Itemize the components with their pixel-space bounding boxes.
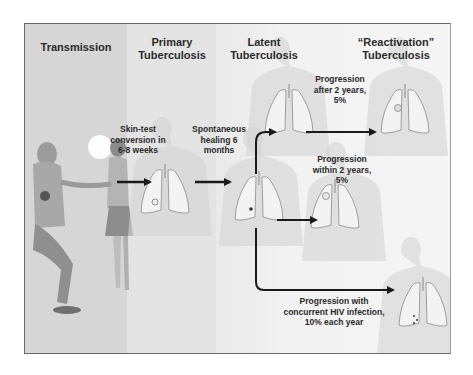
label-line: healing 6 <box>185 135 253 146</box>
transition-label-within-2-years: Progression within 2 years, 5% <box>304 154 380 186</box>
mother-child-illustration <box>33 135 133 314</box>
transition-label-spontaneous-healing: Spontaneous healing 6 months <box>185 124 253 156</box>
label-line: Progression with <box>273 296 395 307</box>
transition-label-skin-test: Skin-test conversion in 6-8 weeks <box>103 124 173 156</box>
stage-header-transmission: Transmission <box>27 41 125 54</box>
diagram-frame: Transmission Primary Tuberculosis Latent… <box>24 23 451 354</box>
label-line: concurrent HIV infection, <box>273 307 395 318</box>
label-line: within 2 years, <box>304 165 380 176</box>
stage-label-line: Tuberculosis <box>221 49 307 62</box>
label-line: months <box>185 145 253 156</box>
stage-label-line: “Reactivation” <box>351 36 441 49</box>
stage-header-latent: Latent Tuberculosis <box>221 36 307 62</box>
label-line: 6-8 weeks <box>103 145 173 156</box>
stage-label-line: Latent <box>221 36 307 49</box>
label-line: 5% <box>305 95 375 106</box>
stage-label: Transmission <box>41 41 112 53</box>
label-line: Skin-test <box>103 124 173 135</box>
label-line: 10% each year <box>273 317 395 328</box>
stage-label-line: Tuberculosis <box>351 49 441 62</box>
label-line: Progression <box>305 74 375 85</box>
label-line: 5% <box>304 175 380 186</box>
label-line: conversion in <box>103 135 173 146</box>
stage-label-line: Primary <box>129 36 215 49</box>
label-line: Progression <box>304 154 380 165</box>
stage-label-line: Tuberculosis <box>129 49 215 62</box>
label-line: after 2 years, <box>305 85 375 96</box>
transition-label-after-2-years: Progression after 2 years, 5% <box>305 74 375 106</box>
transition-label-hiv: Progression with concurrent HIV infectio… <box>273 296 395 328</box>
label-line: Spontaneous <box>185 124 253 135</box>
stage-header-primary: Primary Tuberculosis <box>129 36 215 62</box>
stage-header-reactivation: “Reactivation” Tuberculosis <box>351 36 441 62</box>
